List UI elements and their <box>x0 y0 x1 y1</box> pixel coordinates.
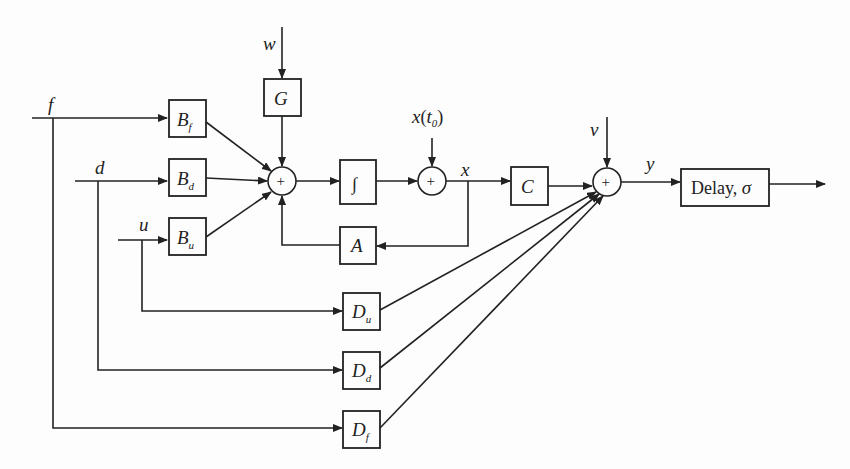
block-bf: Bf <box>169 100 206 137</box>
sum-junction-2: + <box>418 167 446 195</box>
dd-to-sum3-arrow <box>380 194 599 368</box>
block-dd: Dd <box>343 352 380 389</box>
block-diagram: f d u Bf Bd Bu w G + <box>0 0 850 469</box>
block-delay: Delay, σ <box>681 169 769 206</box>
bu-to-sum1-arrow <box>206 192 271 237</box>
a-to-sum1-arrow <box>282 196 340 245</box>
block-du: Du <box>343 293 380 330</box>
block-g: G <box>264 79 301 116</box>
block-df: Df <box>343 411 380 448</box>
svg-text:+: + <box>277 173 285 189</box>
signal-d: d <box>75 157 342 370</box>
bd-to-sum1-arrow <box>206 178 267 181</box>
signal-w: w <box>263 27 282 78</box>
block-bu: Bu <box>169 218 206 255</box>
sum-junction-1: + <box>268 167 296 195</box>
svg-text:A: A <box>349 235 363 256</box>
block-integrator: ∫ <box>340 160 376 204</box>
svg-text:C: C <box>521 176 534 197</box>
d-to-dd-arrow <box>98 181 342 370</box>
block-c: C <box>511 167 548 205</box>
x-label: x <box>460 159 470 180</box>
svg-text:+: + <box>602 174 610 190</box>
block-bd: Bd <box>169 159 206 196</box>
d-label: d <box>95 157 105 178</box>
svg-text:Delay, σ: Delay, σ <box>691 177 752 198</box>
signal-f: f <box>32 94 342 428</box>
svg-text:+: + <box>427 173 435 189</box>
w-label: w <box>263 33 276 54</box>
x0-label: x(t0) <box>411 106 443 129</box>
signal-u: u <box>118 214 342 311</box>
v-label: v <box>590 119 599 140</box>
signal-v: v <box>590 117 607 167</box>
bf-to-sum1-arrow <box>206 122 271 171</box>
y-label: y <box>644 153 655 174</box>
block-a: A <box>340 227 376 264</box>
signal-x0: x(t0) <box>411 106 443 166</box>
df-to-sum3-arrow <box>380 196 603 428</box>
svg-text:G: G <box>274 88 288 109</box>
f-label: f <box>48 94 56 115</box>
sum-junction-3: + <box>593 168 621 196</box>
u-label: u <box>139 214 149 235</box>
du-to-sum3-arrow <box>380 192 596 310</box>
